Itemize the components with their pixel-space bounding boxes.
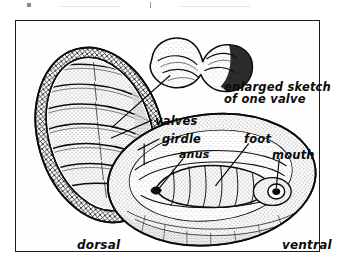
caption-dorsal: dorsal <box>77 239 120 252</box>
figure-page: valves girdle anus foot mouth enlarged s… <box>0 0 338 272</box>
label-foot: foot <box>244 133 271 145</box>
scan-smudge <box>180 6 250 7</box>
label-mouth: mouth <box>272 149 315 161</box>
label-anus: anus <box>179 149 209 161</box>
scan-smudge <box>27 3 31 7</box>
figure-frame: valves girdle anus foot mouth enlarged s… <box>15 20 320 252</box>
label-girdle: girdle <box>162 133 201 145</box>
label-valves: valves <box>155 115 198 127</box>
scan-artifact-strip <box>0 0 338 12</box>
caption-enlarged-valve: enlarged sketch of one valve <box>224 81 331 105</box>
mouth-region <box>253 178 291 206</box>
scan-smudge <box>150 2 151 8</box>
caption-enlarged-valve-line2: of one valve <box>224 93 331 105</box>
scan-smudge <box>60 6 120 7</box>
caption-ventral: ventral <box>282 239 332 252</box>
